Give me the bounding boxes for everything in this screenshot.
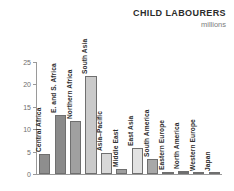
- bar-category-label: South America: [143, 109, 150, 157]
- y-axis-tick-label: 25: [14, 59, 31, 66]
- y-axis-tick-label: 10: [14, 126, 31, 133]
- bar-category-label: South Asia: [81, 39, 88, 74]
- bar: [209, 172, 220, 174]
- chart-figure: CHILD LABOURERS millions 0510152025 Cent…: [0, 0, 234, 191]
- y-axis-tick-label: 20: [14, 81, 31, 88]
- bar-series: Central AfricaE. and S. AfricaNorthern A…: [37, 62, 222, 174]
- bar: [178, 171, 189, 174]
- bar-slot: E. and S. Africa: [55, 62, 66, 174]
- bar-slot: South America: [147, 62, 158, 174]
- bar-category-label: Eastern Europe: [158, 120, 165, 170]
- bar-category-label: Middle East: [112, 129, 119, 167]
- bar-slot: Japan: [209, 62, 220, 174]
- bar-slot: South Asia: [85, 62, 96, 174]
- chart-title-block: CHILD LABOURERS millions: [133, 8, 226, 30]
- bar-category-label: E. and S. Africa: [50, 64, 57, 114]
- bar-slot: Northern Africa: [70, 62, 81, 174]
- bar-slot: North America: [178, 62, 189, 174]
- bar-category-label: Northern Africa: [66, 70, 73, 120]
- x-axis-line: [36, 174, 222, 175]
- y-axis-tick-label: 5: [14, 149, 31, 156]
- bar-slot: Western Europe: [193, 62, 204, 174]
- bar-category-label: Asia–Pacific: [96, 111, 103, 151]
- bar-category-label: East Asia: [127, 116, 134, 146]
- bar: [147, 159, 158, 174]
- bar: [193, 172, 204, 174]
- bar-category-label: Western Europe: [189, 119, 196, 171]
- y-axis-tick-label: 0: [14, 171, 31, 178]
- chart-title: CHILD LABOURERS: [133, 8, 226, 19]
- y-axis-tick: [33, 174, 37, 175]
- bar: [132, 148, 143, 174]
- bar: [85, 76, 96, 174]
- bar-category-label: Japan: [204, 151, 211, 171]
- bar-slot: Middle East: [116, 62, 127, 174]
- bar-category-label: North America: [173, 123, 180, 170]
- chart-subtitle: millions: [133, 20, 226, 30]
- bar: [70, 121, 81, 174]
- bar: [101, 153, 112, 174]
- bar-slot: East Asia: [132, 62, 143, 174]
- bar: [55, 115, 66, 174]
- bar-slot: Central Africa: [39, 62, 50, 174]
- bar: [39, 154, 50, 174]
- bar: [162, 172, 173, 174]
- y-axis-tick-label: 15: [14, 104, 31, 111]
- bar-slot: Asia–Pacific: [101, 62, 112, 174]
- bar-slot: Eastern Europe: [162, 62, 173, 174]
- bar-category-label: Central Africa: [35, 108, 42, 152]
- bar: [116, 169, 127, 174]
- plot-area: Central AfricaE. and S. AfricaNorthern A…: [36, 62, 222, 175]
